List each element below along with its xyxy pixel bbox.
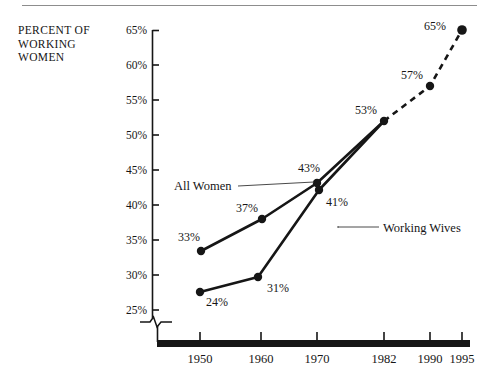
working-wives-point-1960 (254, 273, 262, 281)
series-label-working-wives: Working Wives (383, 221, 461, 235)
all-women-point-1990 (426, 82, 434, 90)
annotation-working-wives: Working Wives (337, 221, 461, 235)
all-women-point-1970 (313, 179, 321, 187)
y-axis-label-65: 65% (126, 24, 148, 36)
value-label-all-women-1995: 65% (424, 19, 446, 33)
x-axis-label-1990: 1990 (418, 352, 443, 366)
y-axis-label-40: 40% (126, 199, 148, 211)
x-axis-label-1970: 1970 (305, 352, 330, 366)
x-axis-label-1995: 1995 (450, 352, 475, 366)
value-label-working-wives-1960: 31% (267, 281, 289, 295)
x-axis-bar (157, 340, 470, 347)
y-axis-label-50: 50% (126, 129, 148, 141)
value-label-all-women-1960: 37% (236, 201, 258, 215)
value-label-working-wives-1970: 41% (326, 195, 348, 209)
y-axis-group: 65% 60% 55% 50% 45% 40% 35% 30% 25% (126, 24, 159, 316)
all-women-line-projection-dashed (384, 30, 462, 121)
all-women-point-1995 (457, 25, 467, 35)
value-label-all-women-1950: 33% (178, 230, 200, 244)
all-women-point-1960 (258, 215, 266, 223)
annotation-all-women: All Women (174, 179, 314, 193)
figure-container: PERCENT OF WORKING WOMEN 65% 60% 55% 50%… (0, 0, 491, 381)
y-axis-label-55: 55% (126, 94, 148, 106)
y-axis-label-45: 45% (126, 164, 148, 176)
x-axis-label-1950: 1950 (188, 352, 213, 366)
value-label-all-women-1970: 43% (298, 161, 320, 175)
y-axis-label-25: 25% (126, 304, 148, 316)
x-axis-label-1960: 1960 (249, 352, 274, 366)
value-label-all-women-1990: 57% (401, 68, 423, 82)
value-label-working-wives-1950: 24% (206, 295, 228, 309)
value-labels-group: 33% 37% 43% 53% 57% 65% 24% 31% 41% (178, 19, 446, 309)
y-axis-label-60: 60% (126, 59, 148, 71)
x-axis-label-1982: 1982 (372, 352, 397, 366)
value-label-all-women-1982: 53% (355, 103, 377, 117)
y-axis-label-35: 35% (126, 234, 148, 246)
all-women-point-1982 (380, 117, 388, 125)
all-women-leader-line (238, 182, 314, 186)
series-label-all-women: All Women (174, 179, 232, 193)
working-wives-point-1950 (196, 288, 204, 296)
x-axis-group: 1950 1960 1970 1982 1990 1995 (157, 332, 475, 366)
all-women-point-1950 (197, 247, 205, 255)
y-axis-label-30: 30% (126, 269, 148, 281)
line-chart-plot: 65% 60% 55% 50% 45% 40% 35% 30% 25% 1950 (0, 0, 491, 381)
